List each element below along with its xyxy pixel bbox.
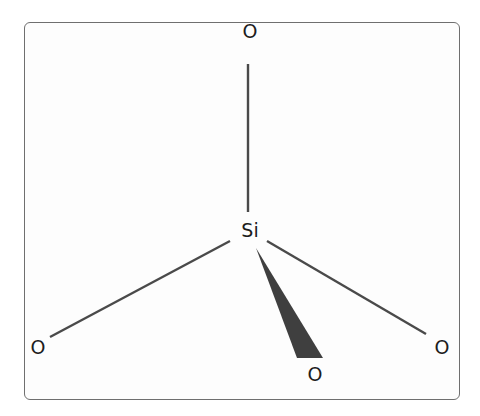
wedge-bond-si-o-bottom <box>256 248 323 358</box>
atom-si: Si <box>241 219 258 241</box>
silicate-tetrahedron-diagram: Si O O O O <box>0 0 480 416</box>
atom-o-bottom: O <box>308 363 323 385</box>
atom-o-right: O <box>435 336 450 358</box>
atom-o-left: O <box>31 336 46 358</box>
atom-o-top: O <box>243 20 258 42</box>
bond-si-o-left <box>50 241 230 337</box>
